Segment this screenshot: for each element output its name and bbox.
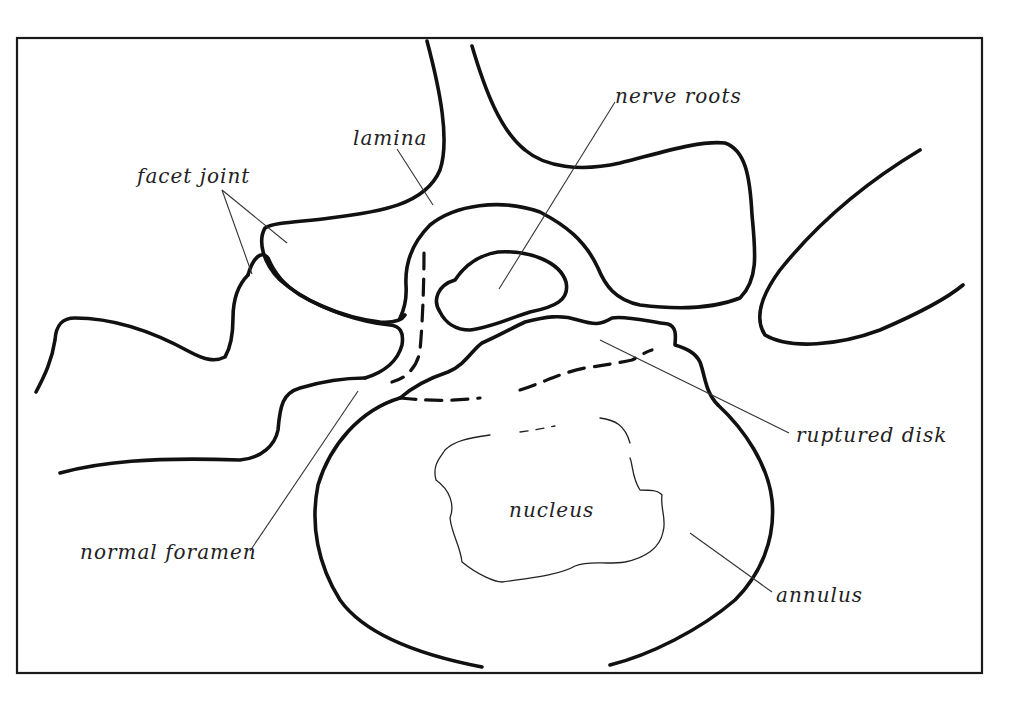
nucleus-outline-top xyxy=(600,418,630,443)
label-normal-foramen: normal foramen xyxy=(80,540,257,564)
annulus-right-outline xyxy=(610,405,773,665)
label-annulus: annulus xyxy=(776,583,863,607)
annulus-left-outline xyxy=(315,398,482,667)
label-lamina: lamina xyxy=(353,126,428,150)
facet-joint-inner-line xyxy=(248,255,403,378)
label-nucleus: nucleus xyxy=(509,498,594,522)
label-facet-joint: facet joint xyxy=(135,164,250,188)
nucleus-outline-dashes xyxy=(520,426,555,432)
right-adjacent-process xyxy=(760,150,963,344)
spine-diagram: lamina facet joint nerve roots ruptured … xyxy=(0,0,1032,715)
lamina-left-outline xyxy=(262,41,444,322)
dashed-disk-boundary xyxy=(400,398,480,400)
left-transverse-process-upper xyxy=(36,275,248,392)
leader-nerve-roots xyxy=(499,102,615,289)
diagram-frame xyxy=(17,38,982,673)
label-ruptured-disk: ruptured disk xyxy=(796,423,947,447)
ruptured-disk-outline xyxy=(400,317,718,405)
leader-normal-foramen xyxy=(250,391,358,551)
label-nerve-roots: nerve roots xyxy=(615,84,742,108)
left-transverse-process-lower xyxy=(60,378,365,473)
